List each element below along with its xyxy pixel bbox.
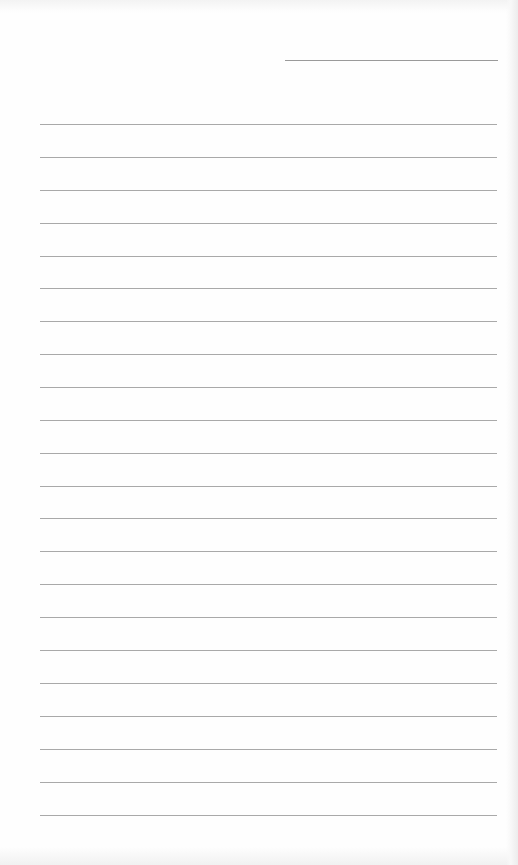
- ruled-line: [40, 321, 497, 322]
- ruled-line: [40, 453, 497, 454]
- ruled-line: [40, 387, 497, 388]
- ruled-line: [40, 749, 497, 750]
- scan-shadow-top: [0, 0, 518, 14]
- ruled-line: [40, 782, 497, 783]
- ruled-line: [40, 815, 497, 816]
- scan-shadow-bottom: [0, 847, 518, 865]
- scan-shadow-right-edge: [506, 0, 518, 865]
- ruled-line: [40, 617, 497, 618]
- header-short-line: [285, 60, 498, 61]
- ruled-line: [40, 288, 497, 289]
- ruled-line: [40, 650, 497, 651]
- lined-paper-page: [0, 0, 518, 865]
- ruled-line: [40, 486, 497, 487]
- ruled-line: [40, 223, 497, 224]
- ruled-line: [40, 716, 497, 717]
- ruled-line: [40, 518, 497, 519]
- ruled-line: [40, 551, 497, 552]
- ruled-line: [40, 420, 497, 421]
- ruled-line: [40, 584, 497, 585]
- ruled-line: [40, 190, 497, 191]
- ruled-line: [40, 354, 497, 355]
- ruled-line: [40, 124, 497, 125]
- ruled-line: [40, 256, 497, 257]
- ruled-line: [40, 157, 497, 158]
- ruled-line: [40, 683, 497, 684]
